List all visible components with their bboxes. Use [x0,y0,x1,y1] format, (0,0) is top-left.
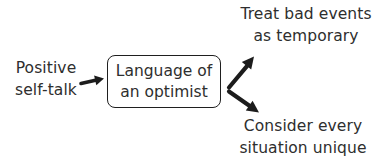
source-label-line1: Positive [4,57,88,79]
arrow-down-right-icon [229,92,259,113]
source-label-line2: self-talk [4,79,88,101]
arrow-up-right-icon [229,57,254,88]
outcome-top-line1: Treat bad events [227,3,385,25]
outcome-top-line2: as temporary [227,25,385,47]
outcome-bottom-label: Consider every situation unique [221,115,385,159]
outcome-bottom-line2: situation unique [221,137,385,159]
center-box-line2: an optimist [120,82,208,103]
source-label: Positive self-talk [4,57,88,101]
outcome-bottom-line1: Consider every [221,115,385,137]
center-box-line1: Language of [116,61,212,82]
center-box: Language of an optimist [107,55,221,108]
outcome-top-label: Treat bad events as temporary [227,3,385,47]
diagram-canvas: Positive self-talk Language of an optimi… [0,0,389,168]
